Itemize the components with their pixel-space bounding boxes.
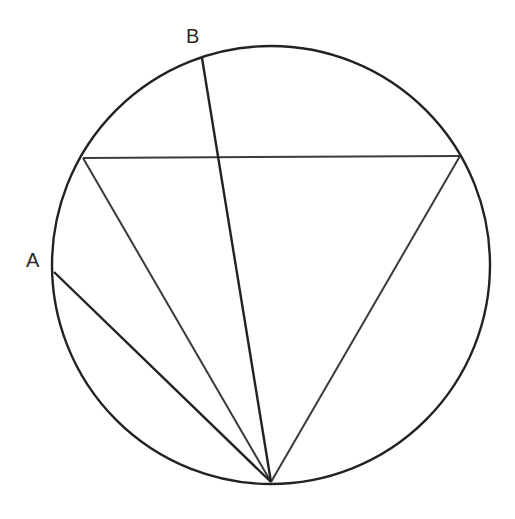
geometry-diagram: B A — [0, 0, 515, 519]
circle — [52, 46, 490, 484]
triangle-left-side — [83, 158, 271, 482]
label-b: B — [186, 25, 199, 47]
triangle-right-side — [271, 156, 460, 482]
triangle-top-side — [83, 156, 460, 158]
chord-to-b — [202, 58, 271, 482]
label-a: A — [26, 249, 40, 271]
chord-to-a — [54, 272, 271, 482]
